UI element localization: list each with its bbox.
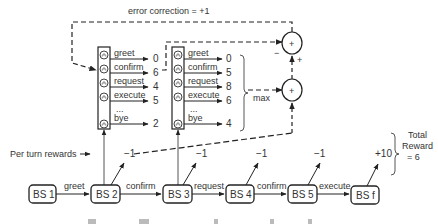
q-value: 6: [153, 67, 159, 78]
adder-bottom: +: [282, 79, 302, 101]
minus-sign: −: [274, 48, 279, 58]
svg-text:BS 5: BS 5: [292, 189, 314, 200]
action-label: bye: [114, 113, 129, 123]
reward-value: −1: [256, 148, 268, 159]
belief-state-bs5: BS 5: [288, 185, 317, 203]
action-label: request: [114, 76, 145, 86]
q-table-2: greet confirm request execute ... bye 0 …: [172, 47, 232, 129]
action-label: greet: [114, 48, 135, 58]
reward-value: −1: [196, 148, 208, 159]
svg-text:+: +: [289, 86, 294, 96]
svg-text:+: +: [289, 39, 294, 49]
belief-state-bs3: BS 3: [163, 185, 192, 203]
svg-text:BS 2: BS 2: [96, 189, 118, 200]
action-label: execute: [114, 90, 146, 100]
reward-value: −1: [124, 148, 136, 159]
transition-label: confirm: [257, 181, 287, 191]
error-correction-label: error correction = +1: [128, 6, 210, 16]
per-turn-rewards-label: Per turn rewards: [10, 149, 77, 159]
action-label: bye: [188, 113, 203, 123]
action-label: greet: [188, 48, 209, 58]
adder-top: +: [282, 32, 302, 54]
svg-text:BS f: BS f: [356, 190, 375, 201]
transition-label: greet: [64, 181, 85, 191]
total-reward-brace: [391, 133, 399, 175]
q-value: 8: [226, 81, 232, 92]
svg-text:BS 1: BS 1: [33, 189, 55, 200]
belief-state-bs2: BS 2: [91, 185, 120, 203]
reinforcement-learning-diagram: error correction = +1 greet confirm requ…: [0, 0, 438, 224]
plus-sign: +: [297, 55, 302, 65]
q-value: 5: [226, 67, 232, 78]
action-label: execute: [188, 90, 220, 100]
q-value: 4: [226, 118, 232, 129]
q-value: 6: [226, 95, 232, 106]
transition-label: execute: [319, 181, 351, 191]
max-brace: [240, 55, 248, 131]
belief-state-bs1: BS 1: [29, 185, 56, 203]
transition-label: request: [194, 181, 225, 191]
total-reward-line2: Reward: [402, 141, 433, 151]
reward-value: +10: [375, 148, 392, 159]
total-reward-line1: Total: [408, 130, 427, 140]
max-label: max: [253, 93, 271, 103]
reward-link-path: [134, 133, 292, 154]
action-label: confirm: [114, 62, 144, 72]
caption-cropped: [88, 219, 312, 224]
action-label: confirm: [188, 62, 218, 72]
transition-label: confirm: [126, 181, 156, 191]
belief-state-bs4: BS 4: [226, 185, 254, 203]
q-table-1: greet confirm request execute ... bye 0 …: [98, 47, 159, 129]
svg-text:BS 3: BS 3: [168, 189, 190, 200]
q-value: 2: [153, 118, 159, 129]
svg-text:BS 4: BS 4: [230, 189, 252, 200]
total-reward-line3: = 6: [407, 152, 420, 162]
q-value: 4: [153, 81, 159, 92]
q-value: 5: [153, 95, 159, 106]
action-label: request: [188, 76, 219, 86]
q-value: 0: [153, 53, 159, 64]
q-value: 0: [226, 53, 232, 64]
reward-value: −1: [314, 148, 326, 159]
belief-state-bsf: BS f: [351, 186, 379, 204]
